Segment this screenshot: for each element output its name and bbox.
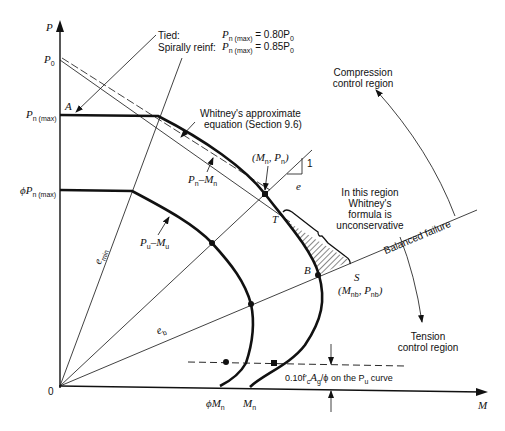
pu-mu-curve: [60, 190, 253, 386]
phi-mn-label: ϕMn: [206, 398, 225, 413]
point-a-label: A: [65, 101, 72, 112]
mnb-pnb-label: (Mnb, Pnb): [338, 285, 382, 300]
pu-balanced-point: [248, 301, 254, 307]
point-t-label: T: [272, 214, 278, 225]
point-b: [315, 272, 321, 278]
m-axis-label: M: [478, 400, 487, 411]
mn-pn-leader: [265, 166, 268, 190]
point-b-label: B: [304, 265, 311, 276]
pu-mu-leader: [158, 217, 169, 235]
p0-label: P0: [44, 54, 55, 69]
origin-label: 0: [48, 386, 54, 397]
mn-pn-label: (Mn, Pn): [252, 152, 289, 167]
compression-region-label: Compression control region: [318, 67, 408, 89]
pu-mu-curve-label: Pu–Mu: [140, 237, 169, 252]
mn-label: Mn: [243, 398, 256, 413]
slope-one-label: 1: [307, 158, 313, 169]
whitney-annotation: Whitney's approximate equation (Section …: [200, 108, 302, 130]
e-line: [60, 150, 312, 386]
tied-label: Tied:: [158, 30, 180, 41]
spiral-label: Spirally reinf:: [158, 42, 216, 53]
tension-arc: [400, 237, 422, 322]
point-s-label: S: [354, 272, 360, 283]
threshold-dashed-line: [188, 362, 405, 366]
spiral-value: Pn (max) = 0.85P0: [222, 41, 294, 56]
pn-mn-curve-label: Pn–Mn: [188, 174, 217, 189]
interaction-diagram: [0, 0, 505, 431]
pn-max-label: Pn (max): [26, 109, 56, 124]
unconservative-annotation: In this region Whitney's formula is unco…: [322, 187, 418, 231]
phi-pn-max-label: ϕPn (max): [20, 185, 56, 200]
pu-emin-point: [209, 240, 215, 246]
pn-threshold-point: [271, 360, 277, 366]
tension-region-label: Tension control region: [393, 331, 463, 353]
pu-threshold-point: [223, 359, 229, 365]
whitney-line: [60, 60, 290, 222]
pn-mn-leader: [207, 158, 213, 172]
p-axis-label: P: [46, 22, 53, 33]
m-axis: [59, 386, 488, 396]
tied-leader: [76, 35, 156, 112]
p-axis: [56, 20, 64, 388]
mn-pn-point: [262, 191, 268, 197]
threshold-annotation: 0.10f′cAg/ϕ on the Pu curve: [285, 372, 393, 387]
e-label: e: [296, 181, 301, 192]
